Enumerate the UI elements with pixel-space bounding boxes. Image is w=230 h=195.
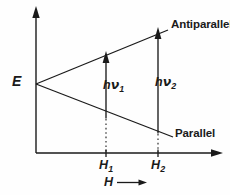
transition-2-label-nu: ν (163, 74, 172, 89)
x-axis-tick-label-1-sub: 1 (108, 164, 113, 174)
x-axis-arrow-icon (211, 149, 223, 157)
x-axis-label-arrow (117, 179, 147, 185)
x-axis-label: H (104, 176, 113, 189)
energy-splitting-diagram: " axis annotation arrow ===== --> E hν1 … (0, 0, 230, 195)
transition-2-label-h: h (155, 75, 163, 89)
y-axis-label: E (12, 74, 22, 88)
antiparallel-branch-label: Antiparallel (171, 19, 230, 31)
x-axis-tick-label-2-sub: 2 (160, 164, 165, 174)
transition-1-label-h: h (103, 78, 111, 92)
y-axis-arrow-icon (32, 6, 39, 18)
transition-1-label: hν1 (103, 79, 124, 92)
x-axis-tick-label-2-base: H (151, 158, 160, 172)
transition-2-arrow (155, 27, 162, 157)
x-axis-tick-label-1-base: H (99, 158, 108, 172)
transition-1-label-sub: 1 (119, 84, 124, 94)
transition-1-label-nu: ν (111, 77, 120, 92)
x-axis-tick-label-1: H1 (99, 159, 113, 172)
x-axis-tick-label-2: H2 (151, 159, 165, 172)
antiparallel-branch-line (36, 30, 168, 84)
transition-1-arrow (103, 51, 110, 157)
parallel-branch-label: Parallel (175, 128, 215, 140)
transition-2-label-sub: 2 (171, 81, 176, 91)
x-axis-label-arrow-head-icon (139, 179, 148, 185)
transition-2-label: hν2 (155, 76, 176, 89)
